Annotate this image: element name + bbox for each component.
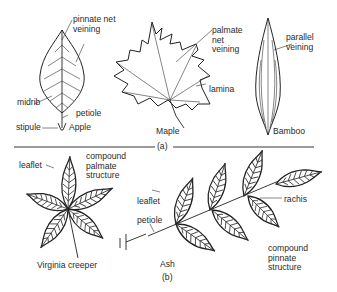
label-palmate-net-veining: palmate net veining: [212, 26, 243, 55]
label-ash-petiole: petiole: [137, 216, 162, 226]
label-rachis: rachis: [284, 195, 307, 205]
label-vc-leaflet: leaflet: [19, 161, 42, 171]
label-petiole: petiole: [76, 109, 101, 119]
label-virginia-creeper: Virginia creeper: [37, 261, 97, 271]
label-bamboo: Bamboo: [273, 127, 305, 137]
label-part-b: (b): [162, 273, 173, 283]
label-midrib: midrib: [17, 98, 40, 108]
label-parallel-veining: parallel veining: [286, 33, 314, 52]
label-compound-pinnate-structure: compound pinnate structure: [268, 244, 308, 273]
label-lamina: lamina: [209, 85, 234, 95]
maple-leaf-drawing: [114, 22, 210, 128]
label-maple: Maple: [156, 127, 179, 137]
bamboo-leaf-drawing: [256, 18, 281, 135]
label-ash: Ash: [160, 260, 175, 270]
label-stipule: stipule: [16, 123, 41, 133]
label-pinnate-net-veining: pinnate net veining: [73, 15, 116, 34]
label-apple: Apple: [69, 123, 91, 133]
leaf-types-figure: pinnate net veining midrib petiole stipu…: [0, 0, 337, 292]
label-compound-palmate-structure: compound palmate structure: [86, 152, 126, 181]
label-part-a: (a): [157, 142, 168, 152]
label-ash-leaflet: leaflet: [137, 197, 160, 207]
